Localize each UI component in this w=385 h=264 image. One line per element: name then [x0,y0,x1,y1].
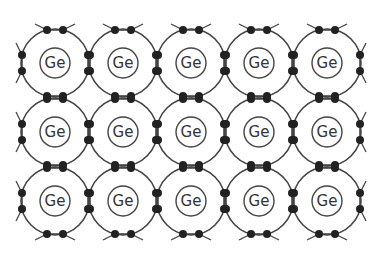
electron-dot [315,230,323,238]
electron-dot [59,95,67,103]
electron-dot [154,67,162,75]
electron-dot [356,136,364,144]
electron-dot [290,120,298,128]
electron-dot [222,189,230,197]
ge-atom: Ge [290,95,366,169]
electron-dot [179,164,187,172]
electron-dot [86,120,94,128]
electron-dot [86,67,94,75]
ge-atom: Ge [86,164,160,240]
electron-dot [18,120,26,128]
element-label: Ge [113,192,134,210]
electron-dot [43,230,51,238]
electron-dot [290,67,298,75]
electron-dot [154,136,162,144]
ge-atom: Ge [222,164,296,240]
element-label: Ge [249,123,270,141]
ge-atom: Ge [222,24,296,100]
electron-dot [59,164,67,172]
electron-dot [111,164,119,172]
element-label: Ge [317,54,338,72]
electron-dot [59,230,67,238]
electron-dot [154,120,162,128]
ge-atom: Ge [16,164,92,240]
electron-dot [195,26,203,34]
electron-dot [290,189,298,197]
ge-atom: Ge [222,95,296,169]
electron-dot [179,230,187,238]
electron-dot [127,26,135,34]
electron-dot [331,95,339,103]
electron-dot [222,67,230,75]
electron-dot [86,51,94,59]
electron-dot [18,205,26,213]
electron-dot [195,95,203,103]
ge-atom: Ge [86,95,160,169]
electron-dot [247,95,255,103]
electron-dot [18,136,26,144]
electron-dot [356,205,364,213]
germanium-lattice-diagram: GeGeGeGeGeGeGeGeGeGeGeGeGeGeGe [0,0,385,264]
ge-atom: Ge [290,164,366,240]
element-label: Ge [249,192,270,210]
electron-dot [222,120,230,128]
ge-atom: Ge [154,24,228,100]
electron-dot [154,189,162,197]
electron-dot [59,26,67,34]
electron-dot [222,136,230,144]
electron-dot [86,205,94,213]
electron-dot [356,51,364,59]
element-label: Ge [113,123,134,141]
electron-dot [127,230,135,238]
electron-dot [222,51,230,59]
electron-dot [290,136,298,144]
electron-dot [331,230,339,238]
electron-dot [247,230,255,238]
electron-dot [43,26,51,34]
electron-dot [43,164,51,172]
ge-atom: Ge [16,95,92,169]
electron-dot [18,51,26,59]
ge-atom: Ge [154,95,228,169]
element-label: Ge [45,192,66,210]
electron-dot [247,164,255,172]
element-label: Ge [181,123,202,141]
electron-dot [290,51,298,59]
electron-dot [263,26,271,34]
electron-dot [222,205,230,213]
element-label: Ge [181,54,202,72]
electron-dot [127,95,135,103]
electron-dot [263,95,271,103]
electron-dot [315,95,323,103]
electron-dot [263,164,271,172]
ge-atom: Ge [154,164,228,240]
electron-dot [111,26,119,34]
ge-atom: Ge [290,24,366,100]
element-label: Ge [181,192,202,210]
electron-dot [127,164,135,172]
electron-dot [43,95,51,103]
electron-dot [18,189,26,197]
electron-dot [154,51,162,59]
electron-dot [315,26,323,34]
ge-atom: Ge [16,24,92,100]
element-label: Ge [45,123,66,141]
electron-dot [263,230,271,238]
electron-dot [179,95,187,103]
electron-dot [111,230,119,238]
electron-dot [356,67,364,75]
electron-dot [111,95,119,103]
electron-dot [195,230,203,238]
electron-dot [86,136,94,144]
electron-dot [290,205,298,213]
electron-dot [356,189,364,197]
ge-atom: Ge [86,24,160,100]
electron-dot [18,67,26,75]
electron-dot [356,120,364,128]
electron-dot [86,189,94,197]
electron-dot [315,164,323,172]
electron-dot [154,205,162,213]
electron-dot [331,26,339,34]
element-label: Ge [45,54,66,72]
electron-dot [331,164,339,172]
